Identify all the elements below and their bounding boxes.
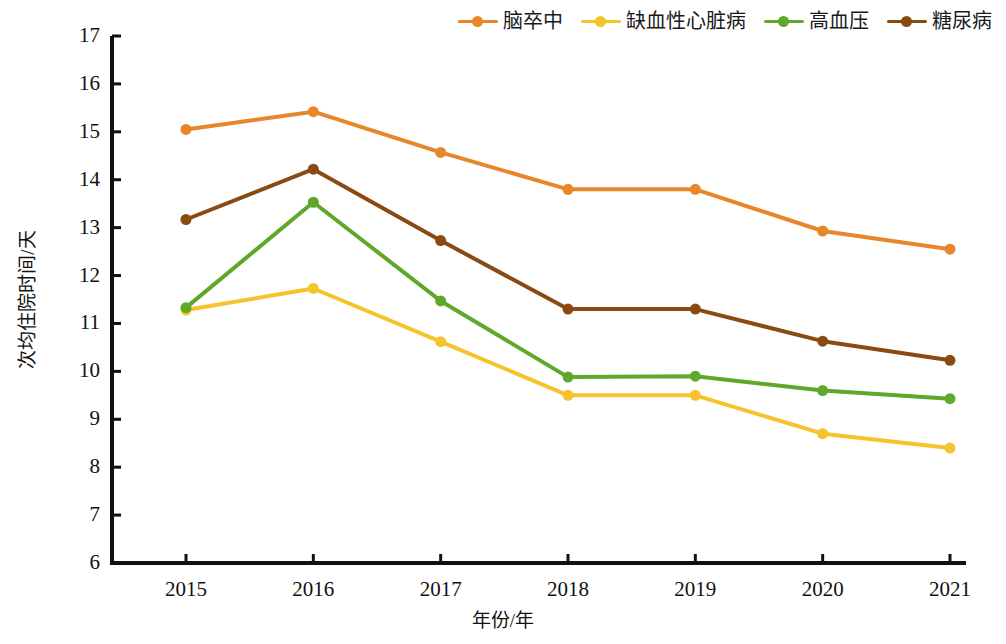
plot-area: 17161514131211109876 2015201620172018201… [0,0,1006,644]
x-tick-label: 2017 [401,579,481,600]
x-tick-label: 2016 [273,579,353,600]
y-tick-label: 14 [52,169,100,190]
y-tick-label: 12 [52,265,100,286]
y-tick-label: 9 [52,408,100,429]
y-tick-label: 7 [52,504,100,525]
y-tick-label: 10 [52,360,100,381]
y-tick-label: 13 [52,217,100,238]
plot-svg [0,0,1006,644]
x-tick-label: 2019 [655,579,735,600]
x-tick-label: 2018 [528,579,608,600]
x-axis-title: 年份/年 [0,611,1006,630]
x-tick-label: 2020 [783,579,863,600]
y-tick-label: 8 [52,456,100,477]
y-tick-label: 16 [52,73,100,94]
y-tick-label: 6 [52,552,100,573]
y-tick-label: 17 [52,25,100,46]
y-tick-label: 11 [52,312,100,333]
y-tick-label: 15 [52,121,100,142]
x-tick-label: 2021 [910,579,990,600]
y-axis-title: 次均住院时间/天 [18,210,37,390]
x-tick-label: 2015 [146,579,226,600]
line-chart: 脑卒中 缺血性心脏病 高血压 糖尿病 1716151413121 [0,0,1006,644]
